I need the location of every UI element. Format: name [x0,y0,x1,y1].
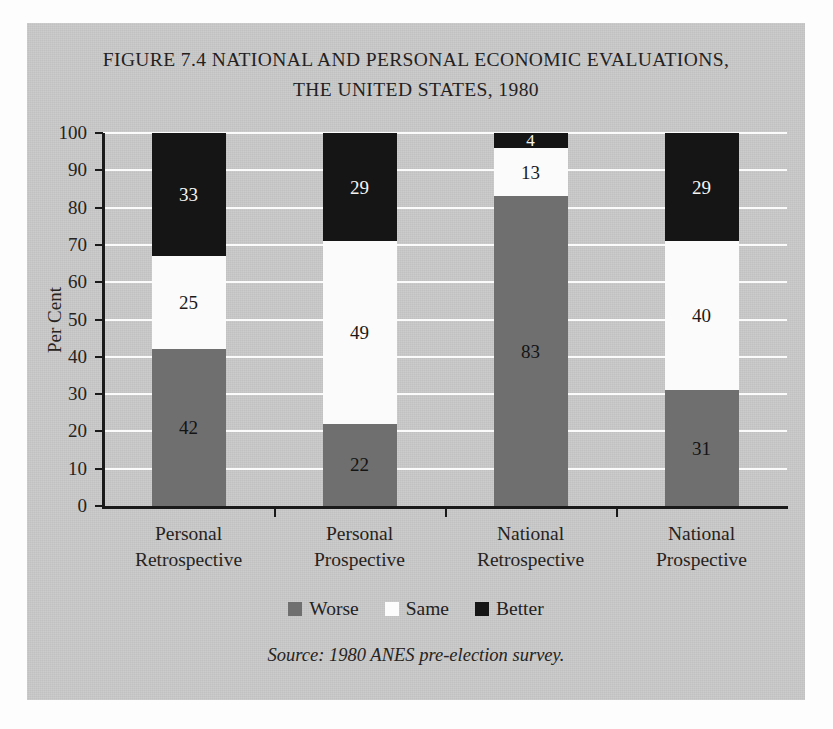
y-axis-tick [95,207,103,209]
white-swatch [385,602,399,616]
bar-segment-better[interactable]: 29 [665,133,739,241]
x-axis-category-label: PersonalProspective [274,521,445,573]
category-label-line: Retrospective [103,547,274,573]
legend-label: Better [496,598,544,620]
x-axis-tick [445,506,447,517]
bar-segment-better[interactable]: 4 [494,133,568,148]
x-axis-tick [616,506,618,517]
x-axis-category-label: PersonalRetrospective [103,521,274,573]
bar-group[interactable]: 422533 [152,133,226,506]
y-axis-tick-label: 20 [41,421,87,440]
y-axis-tick [95,132,103,134]
y-axis-tick [95,468,103,470]
category-label-line: Retrospective [445,547,616,573]
gray-swatch [288,602,302,616]
bar-segment-worse[interactable]: 22 [323,424,397,506]
y-axis-tick-label: 70 [41,235,87,254]
y-axis-tick-label: 10 [41,459,87,478]
bar-group[interactable]: 83134 [494,133,568,506]
chart-legend: WorseSameBetter [27,598,805,620]
y-axis-tick-label: 0 [41,496,87,515]
bar-segment-worse[interactable]: 83 [494,196,568,506]
y-axis-tick [95,169,103,171]
bar-segment-same[interactable]: 49 [323,241,397,424]
black-swatch [475,602,489,616]
figure-title: FIGURE 7.4 NATIONAL AND PERSONAL ECONOMI… [27,45,805,105]
category-label-line: National [445,521,616,547]
bar-segment-worse[interactable]: 42 [152,349,226,506]
y-axis-tick-label: 30 [41,384,87,403]
legend-item-worse[interactable]: Worse [288,598,358,620]
figure-title-line-1: FIGURE 7.4 NATIONAL AND PERSONAL ECONOMI… [27,45,805,75]
category-label-line: Personal [103,521,274,547]
y-axis-tick [95,393,103,395]
y-axis-tick [95,430,103,432]
y-axis-tick-label: 40 [41,347,87,366]
legend-item-same[interactable]: Same [385,598,449,620]
bar-segment-better[interactable]: 29 [323,133,397,241]
category-label-line: National [616,521,787,547]
y-axis-tick-label: 60 [41,272,87,291]
plot-area: 42253322492983134314029 [103,133,787,506]
y-axis-tick [95,281,103,283]
bar-segment-same[interactable]: 25 [152,256,226,349]
x-axis-category-label: NationalRetrospective [445,521,616,573]
x-axis-tick [274,506,276,517]
y-axis-tick-label: 50 [41,310,87,329]
bar-segment-same[interactable]: 40 [665,241,739,390]
y-axis-tick [95,356,103,358]
y-axis-tick-label: 90 [41,160,87,179]
y-axis-tick-label: 100 [41,123,87,142]
figure-title-line-2: THE UNITED STATES, 1980 [27,75,805,105]
bar-group[interactable]: 314029 [665,133,739,506]
bar-segment-better[interactable]: 33 [152,133,226,256]
category-label-line: Prospective [274,547,445,573]
figure-panel: FIGURE 7.4 NATIONAL AND PERSONAL ECONOMI… [27,23,805,700]
y-axis-tick [95,244,103,246]
legend-label: Same [406,598,449,620]
y-axis-tick [95,319,103,321]
category-label-line: Personal [274,521,445,547]
bar-segment-worse[interactable]: 31 [665,390,739,506]
y-axis-tick-label: 80 [41,198,87,217]
y-axis-tick [95,505,103,507]
category-label-line: Prospective [616,547,787,573]
source-note: Source: 1980 ANES pre-election survey. [27,645,805,666]
bar-segment-same[interactable]: 13 [494,148,568,196]
legend-label: Worse [309,598,358,620]
bar-group[interactable]: 224929 [323,133,397,506]
legend-item-better[interactable]: Better [475,598,544,620]
chart-area: Per Cent 42253322492983134314029 0102030… [103,133,787,506]
x-axis-category-label: NationalProspective [616,521,787,573]
